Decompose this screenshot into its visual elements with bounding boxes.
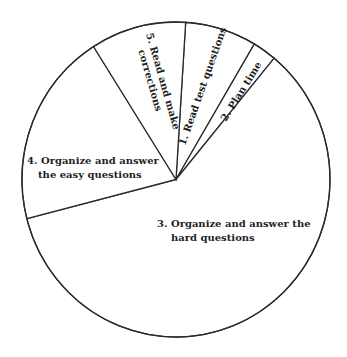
slice-label-3-line-2: hard questions bbox=[171, 232, 255, 243]
slice-label-4-line-2: the easy questions bbox=[38, 169, 142, 180]
pie-chart: 1. Read test questions 2. Plan time 3. O… bbox=[0, 0, 347, 357]
slice-label-4-line-1: 4. Organize and answer bbox=[27, 155, 160, 166]
slice-label-3-line-1: 3. Organize and answer the bbox=[157, 218, 311, 229]
